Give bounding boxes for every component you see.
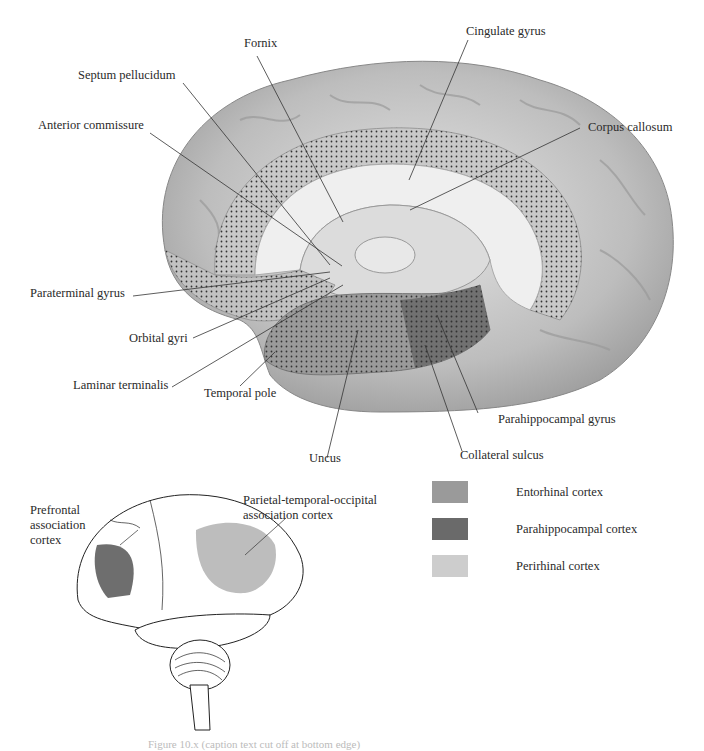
legend-label: Entorhinal cortex (516, 485, 603, 500)
label-fornix: Fornix (244, 36, 277, 51)
medial-brain-illustration (0, 0, 704, 751)
label-paraterminal-gyrus: Paraterminal gyrus (30, 286, 125, 301)
label-corpus-callosum: Corpus callosum (588, 120, 672, 135)
legend-label: Perirhinal cortex (516, 559, 600, 574)
label-collateral-sulcus: Collateral sulcus (460, 448, 544, 463)
legend-label: Parahippocampal cortex (516, 522, 637, 537)
lateral-brain-illustration (77, 495, 303, 730)
swatch-perirhinal (432, 555, 468, 577)
swatch-entorhinal (432, 481, 468, 503)
legend-item-perirhinal: Perirhinal cortex (432, 555, 600, 577)
legend-item-parahippocampal: Parahippocampal cortex (432, 518, 637, 540)
label-septum-pellucidum: Septum pellucidum (78, 68, 176, 83)
label-uncus: Uncus (309, 451, 341, 466)
label-parietal-temporal-occipital-association-cortex: Parietal-temporal-occipital association … (243, 493, 377, 523)
label-cingulate-gyrus: Cingulate gyrus (466, 24, 546, 39)
label-orbital-gyri: Orbital gyri (129, 331, 188, 346)
label-prefrontal-association-cortex: Prefrontal association cortex (30, 503, 86, 548)
label-temporal-pole: Temporal pole (204, 386, 276, 401)
label-laminar-terminalis: Laminar terminalis (73, 378, 168, 393)
figure-caption: Figure 10.x (caption text cut off at bot… (148, 738, 360, 750)
label-parahippocampal-gyrus: Parahippocampal gyrus (498, 412, 616, 427)
label-anterior-commissure: Anterior commissure (38, 118, 144, 133)
swatch-parahippocampal (432, 518, 468, 540)
legend-item-entorhinal: Entorhinal cortex (432, 481, 603, 503)
